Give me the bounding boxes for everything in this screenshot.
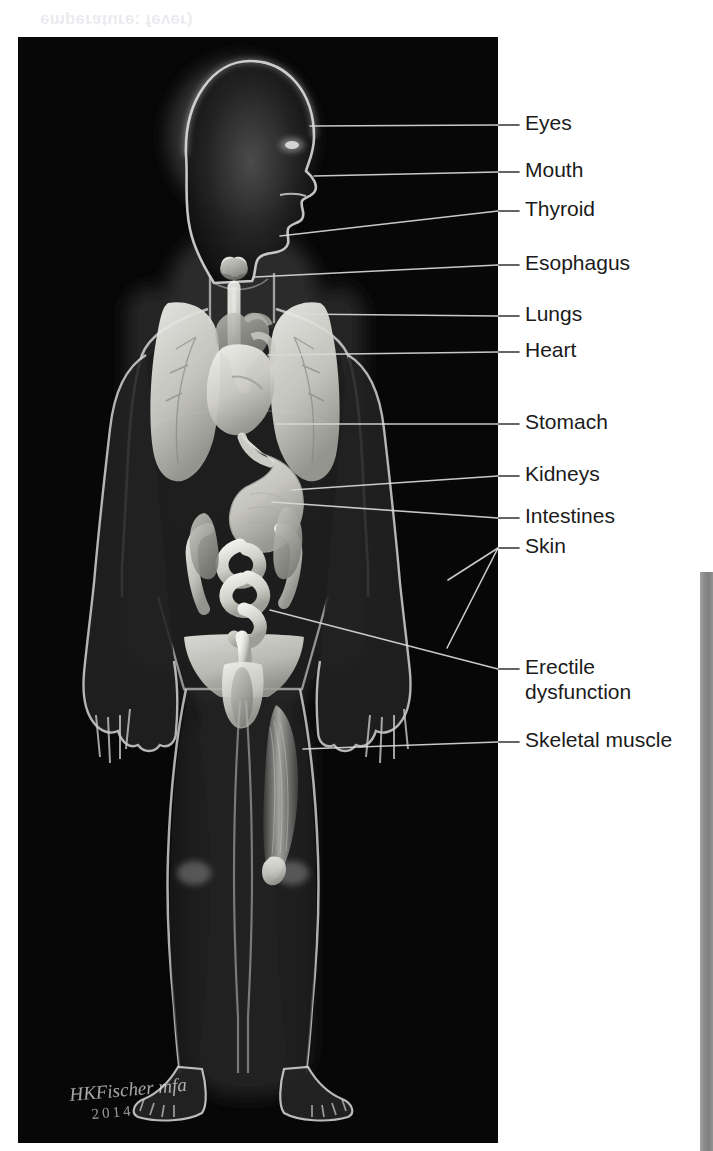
page-margin-bar [700, 572, 713, 1151]
callout-label-eyes[interactable]: Eyes [525, 110, 572, 135]
callout-label-heart[interactable]: Heart [525, 337, 576, 362]
anatomy-figure-plate: HKFischer mfa 2014 [18, 37, 498, 1143]
callout-label-skeletal-muscle[interactable]: Skeletal muscle [525, 727, 672, 752]
thyroid [220, 257, 248, 280]
callout-label-thyroid[interactable]: Thyroid [525, 196, 595, 221]
callout-label-kidneys[interactable]: Kidneys [525, 461, 600, 486]
anatomy-illustration: HKFischer mfa 2014 [18, 37, 498, 1143]
callout-label-stomach[interactable]: Stomach [525, 409, 608, 434]
callout-label-esophagus[interactable]: Esophagus [525, 250, 630, 275]
heart [207, 313, 275, 436]
callout-label-mouth[interactable]: Mouth [525, 157, 583, 182]
ghost-bleedthrough-text: emperature: fever) [40, 8, 470, 30]
callout-label-lungs[interactable]: Lungs [525, 301, 582, 326]
callout-label-erectile[interactable]: Erectile dysfunction [525, 654, 631, 704]
callout-label-intestines[interactable]: Intestines [525, 503, 615, 528]
callout-label-skin[interactable]: Skin [525, 533, 566, 558]
